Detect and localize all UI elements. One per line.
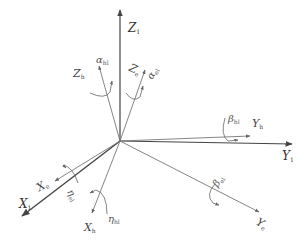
alpha-h-rotation-icon — [90, 81, 112, 96]
beta-h-label: βhl — [228, 114, 240, 125]
alpha-h-label: αhl — [96, 55, 109, 66]
ze-axis — [120, 70, 145, 141]
zh-axis — [99, 66, 120, 141]
xh-label: Xh — [84, 222, 96, 234]
x1-label: X1 — [19, 198, 31, 211]
y1-label: Y1 — [282, 150, 294, 163]
zh-label: Zh — [73, 68, 85, 80]
yh-label: Yh — [252, 118, 263, 130]
yh-axis — [120, 136, 250, 141]
eta-h-label: ηhl — [108, 214, 120, 225]
y1-axis — [120, 141, 292, 144]
xe-axis — [55, 141, 120, 181]
ye-axis — [120, 141, 259, 212]
alpha-e-rotation-icon — [126, 86, 143, 99]
z1-label: Z1 — [128, 22, 140, 35]
